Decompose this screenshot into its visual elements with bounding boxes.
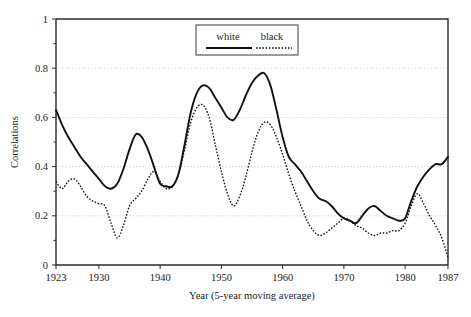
- x-tick-label: 1950: [211, 272, 232, 283]
- y-axis-title: Correlations: [9, 116, 20, 168]
- y-tick-label: 0: [43, 260, 48, 271]
- legend-label-black: black: [261, 31, 284, 42]
- chart-figure: 00.20.40.60.81 1923193019401950196019701…: [0, 0, 471, 317]
- y-tick-label: 0.2: [35, 210, 48, 221]
- y-tick-label: 0.6: [35, 112, 48, 123]
- x-tick-label: 1923: [46, 272, 67, 283]
- y-tick-label: 0.8: [35, 63, 48, 74]
- legend-label-white: white: [216, 31, 240, 42]
- y-tick-label: 0.4: [35, 161, 49, 172]
- x-tick-label: 1987: [438, 272, 459, 283]
- x-axis-title: Year (5-year moving average): [189, 290, 315, 302]
- x-tick-label: 1960: [272, 272, 293, 283]
- correlations-line-chart: 00.20.40.60.81 1923193019401950196019701…: [0, 0, 471, 317]
- legend[interactable]: white black: [196, 25, 298, 55]
- x-tick-label: 1930: [88, 272, 109, 283]
- y-tick-label: 1: [43, 14, 48, 25]
- x-tick-label: 1980: [395, 272, 416, 283]
- x-tick-label: 1970: [333, 272, 354, 283]
- x-tick-label: 1940: [150, 272, 171, 283]
